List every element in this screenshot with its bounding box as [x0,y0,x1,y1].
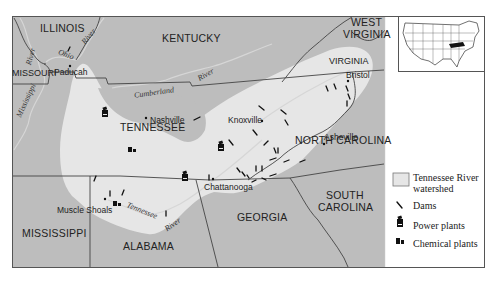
watershed-swatch-icon [393,173,409,186]
legend-label-chemical-plants: Chemical plants [413,238,478,249]
legend-item-dams: Dams [413,200,436,211]
legend-label-watershed-1: Tennessee River [413,172,479,183]
legend-label-power-plants: Power plants [413,220,465,231]
city-label-muscle-shoals: Muscle Shoals [57,205,112,215]
state-label-west-virginia-1: WEST [351,16,382,28]
city-label-bristol: Bristol [346,70,370,80]
legend-item-power-plants: Power plants [413,220,465,231]
city-label-chattanooga: Chattanooga [204,182,253,192]
state-label-west-virginia-2: VIRGINIA [343,28,391,40]
state-label-kentucky: KENTUCKY [162,32,221,44]
city-label-asheville: Asheville [324,132,358,142]
us-inset-map [398,16,485,72]
state-label-missouri: MISSOURI [12,68,57,78]
state-label-mississippi: MISSISSIPPI [22,227,87,239]
state-label-illinois: ILLINOIS [40,22,85,34]
legend-label-dams: Dams [413,200,436,211]
state-label-south-carolina-2: CAROLINA [318,201,373,213]
state-label-south-carolina-1: SOUTH [326,189,364,201]
us-outline-icon [399,17,484,71]
city-label-knoxville: Knoxville [228,115,262,125]
legend-item-watershed: Tennessee River watershed [413,172,479,194]
state-label-virginia: VIRGINIA [329,56,369,66]
legend-item-chemical-plants: Chemical plants [413,238,478,249]
legend-label-watershed-2: watershed [413,183,479,194]
city-label-nashville: Nashville [150,115,185,125]
state-label-alabama: ALABAMA [123,240,174,252]
city-label-paducah: Paducah [54,67,88,77]
state-label-georgia: GEORGIA [237,211,287,223]
